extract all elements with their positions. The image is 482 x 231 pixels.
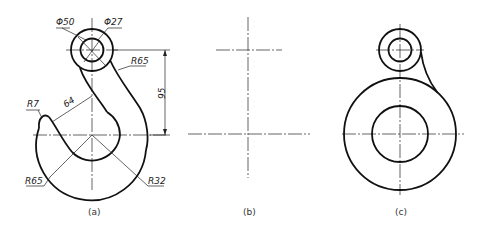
dim-phi27: Φ27 — [104, 17, 123, 27]
leader-r7 — [38, 110, 42, 118]
arrow-95-top — [163, 50, 167, 56]
dim-r32: R32 — [148, 176, 166, 186]
leader-r32 — [92, 135, 148, 186]
leader-r65-top — [118, 66, 130, 70]
hook-left-neck — [80, 68, 107, 112]
dim-r7: R7 — [27, 99, 39, 109]
caption-c: (c) — [395, 207, 407, 217]
hook-inner-arc — [72, 112, 120, 161]
figure-a: Φ50 Φ27 R65 R7 64 95 R65 R32 (a) — [25, 17, 170, 217]
hook-outer-arc — [36, 128, 146, 200]
hook-tip-arc — [39, 116, 49, 128]
dim-r65-bottom: R65 — [25, 176, 43, 186]
caption-b: (b) — [243, 207, 256, 217]
figure-c: (c) — [342, 24, 464, 217]
arrow-95-bottom — [163, 129, 167, 135]
caption-a: (a) — [88, 207, 101, 217]
figure-b: (b) — [188, 17, 310, 217]
dim-95: 95 — [157, 87, 167, 99]
dim-phi50: Φ50 — [56, 17, 75, 27]
drawing-canvas: Φ50 Φ27 R65 R7 64 95 R65 R32 (a) (b) (c) — [0, 0, 482, 231]
hook-inner-s-curve — [49, 117, 72, 152]
dim-r65-top: R65 — [131, 56, 149, 66]
hook-right-curve — [110, 60, 148, 150]
leader-r65-bottom — [50, 135, 92, 177]
